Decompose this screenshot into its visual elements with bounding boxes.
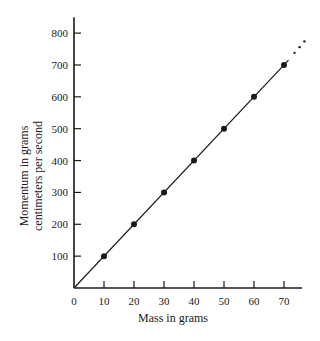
x-tick-label: 40: [189, 295, 201, 307]
y-tick-label: 400: [52, 155, 69, 167]
y-tick-label: 300: [52, 186, 69, 198]
y-tick-label: 600: [52, 91, 69, 103]
x-tick-label: 60: [249, 295, 261, 307]
x-tick-label: 20: [129, 295, 141, 307]
y-tick-label: 500: [52, 123, 69, 135]
extrapolation-dot: [293, 52, 295, 54]
y-tick-label: 700: [52, 59, 69, 71]
trend-line: [74, 60, 289, 288]
y-axis-label-line-1: Momentum in grams: [17, 125, 31, 226]
data-point: [131, 221, 137, 227]
data-point: [221, 126, 227, 132]
data-point: [251, 94, 257, 100]
data-point: [191, 158, 197, 164]
data-point: [281, 62, 287, 68]
chart: 010203040506070100200300400500600700800 …: [0, 0, 320, 341]
axes: [74, 17, 302, 288]
x-tick-label: 70: [279, 295, 291, 307]
x-tick-label: 10: [99, 295, 111, 307]
extrapolation-dot: [298, 46, 300, 48]
y-axis-label-line-2: centimeters per second: [31, 121, 45, 231]
y-tick-label: 200: [52, 218, 69, 230]
x-tick-label: 30: [159, 295, 171, 307]
y-tick-label: 800: [52, 27, 69, 39]
x-tick-label: 0: [71, 295, 77, 307]
extrapolation-dot: [303, 40, 305, 42]
data-point: [161, 189, 167, 195]
data-series: [74, 40, 306, 288]
y-tick-label: 100: [52, 250, 69, 262]
data-point: [101, 253, 107, 259]
x-axis-label: Mass in grams: [138, 311, 208, 325]
x-tick-label: 50: [219, 295, 231, 307]
y-axis-label: Momentum in grams centimeters per second: [17, 121, 45, 231]
ticks: 010203040506070100200300400500600700800: [52, 27, 291, 307]
